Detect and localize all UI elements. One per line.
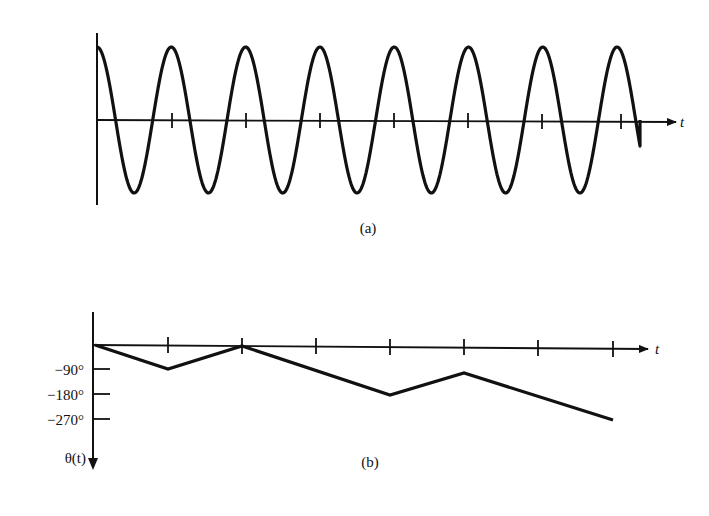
y-tick-label-minus-90: −90°	[55, 362, 84, 378]
panel-a-caption: (a)	[360, 220, 377, 237]
panel-a-x-axis	[97, 120, 676, 122]
panel-b: −90° −180° −270° t θ(t) (b)	[47, 312, 660, 471]
figure-canvas: t (a) −90° −180° −270° t θ(t) (b)	[0, 0, 709, 516]
panel-b-theta-label: θ(t)	[65, 450, 86, 467]
panel-a: t (a)	[97, 33, 685, 237]
panel-b-y-ticks	[93, 369, 110, 419]
y-tick-label-minus-180: −180°	[47, 387, 84, 403]
panel-a-t-label: t	[680, 114, 685, 130]
panel-b-caption: (b)	[361, 454, 379, 471]
y-tick-label-minus-270: −270°	[47, 412, 84, 428]
panel-b-phase-curve	[95, 345, 613, 420]
panel-b-y-arrow	[88, 458, 98, 470]
panel-b-x-axis	[93, 345, 648, 349]
panel-b-t-label: t	[655, 341, 660, 357]
